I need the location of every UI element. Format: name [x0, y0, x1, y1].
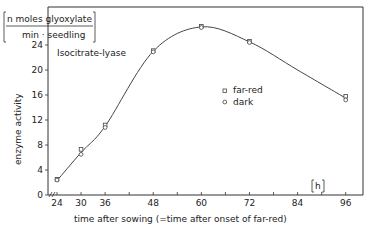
svg-text:48: 48: [148, 198, 160, 208]
svg-text:12: 12: [32, 115, 43, 125]
circle-marker-icon: [223, 100, 227, 104]
svg-text:8: 8: [37, 140, 43, 150]
svg-text:36: 36: [99, 198, 111, 208]
svg-text:dark: dark: [233, 97, 254, 107]
svg-text:20: 20: [32, 65, 44, 75]
svg-text:72: 72: [244, 198, 255, 208]
y-unit-label: n moles glyoxylate min · seedling: [4, 12, 95, 42]
svg-text:far-red: far-red: [233, 85, 263, 95]
svg-text:30: 30: [75, 198, 87, 208]
x-ticks: 2430364860728496: [51, 192, 351, 208]
svg-text:h: h: [315, 181, 321, 191]
legend: far-red dark: [223, 85, 263, 107]
svg-text:16: 16: [32, 90, 44, 100]
y-ticks: 04812162024: [32, 40, 48, 200]
svg-text:96: 96: [340, 198, 352, 208]
x-unit-label: h: [312, 180, 324, 192]
x-axis-label: time after sowing (=time after onset of …: [74, 214, 287, 224]
y-axis-label: enzyme activity: [13, 93, 23, 165]
svg-text:24: 24: [51, 198, 63, 208]
square-marker-icon: [223, 89, 227, 93]
svg-text:60: 60: [196, 198, 208, 208]
svg-text:n moles glyoxylate: n moles glyoxylate: [7, 14, 92, 24]
svg-text:4: 4: [37, 165, 43, 175]
svg-text:min · seedling: min · seedling: [22, 30, 85, 40]
svg-text:0: 0: [37, 190, 43, 200]
svg-text:84: 84: [292, 198, 304, 208]
chart: 04812162024 2430364860728496 n moles gly…: [0, 0, 369, 231]
svg-text:24: 24: [32, 40, 44, 50]
chart-title: Isocitrate-lyase: [57, 48, 126, 58]
